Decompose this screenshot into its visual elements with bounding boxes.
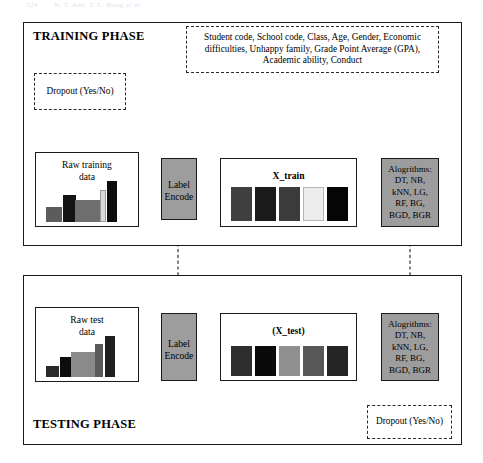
raw-test-data-bars [44,331,132,377]
running-head-text: N. T. Anh, T. L. Hung et al. [54,1,142,9]
bar [231,346,252,376]
label-encode-train-label: Label Encode [162,179,196,203]
raw-test-data-box: Raw test data [35,307,139,382]
running-head: 224N. T. Anh, T. L. Hung et al. [26,1,326,10]
label-encode-test-label: Label Encode [162,338,196,362]
dropout-train-box: Dropout (Yes/No) [34,73,126,110]
bar [46,207,62,222]
raw-training-data-box: Raw training data [35,152,139,227]
bar [279,187,300,221]
label-encode-train-box: Label Encode [161,158,197,220]
raw-training-data-bars [44,176,132,222]
bar [327,346,348,376]
label-encode-test-box: Label Encode [161,313,197,381]
algorithms-test-box: Alogrithms: DT, NB, kNN, LG, RF, BG, BGD… [381,313,439,381]
x-test-label: (X_test) [221,325,356,337]
dropout-test-box: Dropout (Yes/No) [367,405,452,439]
algorithms-test-label: Alogrithms: DT, NB, kNN, LG, RF, BG, BGD… [382,319,438,376]
bar [279,346,300,376]
running-head-page: 224 [26,1,54,9]
features-box: Student code, School code, Class, Age, G… [186,26,439,73]
bar [100,190,106,222]
x-test-bars [231,344,349,376]
x-test-box: (X_test) [220,313,357,381]
bar [71,352,96,377]
bar [75,200,101,222]
algorithms-train-label: Alogrithms: DT, NB, kNN, LG, RF, BG, BGD… [382,164,438,221]
x-train-label: X_train [221,170,356,182]
bar [255,346,276,376]
bar [107,181,117,222]
training-phase-title: TRAINING PHASE [33,29,145,44]
bar [46,366,59,377]
bar [303,187,324,221]
algorithms-train-box: Alogrithms: DT, NB, kNN, LG, RF, BG, BGD… [381,158,439,227]
bar [105,336,115,377]
bar [327,187,348,221]
testing-phase-title: TESTING PHASE [33,417,136,432]
diagram-canvas: 224N. T. Anh, T. L. Hung et al. [0,0,483,463]
x-train-bars [231,185,349,221]
bar [255,187,276,221]
bar [303,346,324,376]
bar [95,344,103,377]
bar [231,187,252,221]
x-train-box: X_train [220,158,357,227]
